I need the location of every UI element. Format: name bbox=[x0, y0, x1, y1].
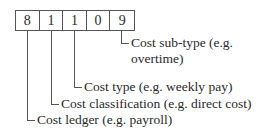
connector-type-vertical bbox=[74, 31, 75, 87]
digit-cost-classification: 1 bbox=[40, 11, 64, 30]
connector-ledger-horizontal bbox=[27, 120, 35, 121]
connector-ledger-vertical bbox=[27, 31, 28, 120]
connector-classification-vertical bbox=[51, 31, 52, 104]
digit-cost-subtype-2: 9 bbox=[110, 11, 134, 30]
digit-cost-ledger: 8 bbox=[16, 11, 40, 30]
digit-cost-type: 1 bbox=[63, 11, 87, 30]
connector-subtype-vertical bbox=[121, 31, 122, 43]
connector-type-horizontal bbox=[74, 87, 82, 88]
label-cost-type: Cost type (e.g. weekly pay) bbox=[84, 79, 232, 95]
label-cost-subtype-line1: Cost sub-type (e.g. bbox=[131, 35, 233, 51]
cost-code-box: 8 1 1 0 9 bbox=[15, 10, 135, 31]
label-cost-ledger: Cost ledger (e.g. payroll) bbox=[37, 112, 172, 128]
connector-subtype-horizontal bbox=[121, 43, 129, 44]
label-cost-classification: Cost classification (e.g. direct cost) bbox=[61, 96, 251, 112]
label-cost-subtype-line2: overtime) bbox=[131, 51, 233, 67]
connector-classification-horizontal bbox=[51, 104, 59, 105]
label-cost-subtype: Cost sub-type (e.g. overtime) bbox=[131, 35, 233, 67]
digit-cost-subtype-1: 0 bbox=[87, 11, 111, 30]
